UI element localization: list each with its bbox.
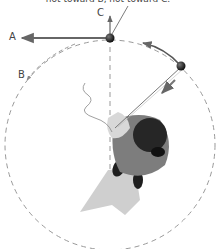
hair-bun (151, 147, 165, 157)
label-a: A (9, 31, 16, 42)
ball-right (177, 62, 186, 71)
arrow-b (27, 44, 75, 80)
caption-pointer (112, 6, 128, 34)
motion-arc (143, 43, 180, 65)
ball-top (106, 34, 115, 43)
label-c: C (97, 7, 104, 18)
head (133, 118, 167, 152)
label-b: B (18, 69, 25, 80)
circular-path (5, 40, 215, 249)
diagram-canvas (0, 0, 216, 249)
